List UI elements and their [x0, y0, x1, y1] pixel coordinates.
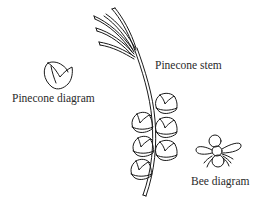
- pinecone-scales: [131, 93, 177, 179]
- scale-icon: [156, 117, 178, 137]
- scale-icon: [133, 136, 154, 156]
- scale-icon: [156, 140, 178, 160]
- pinecone-stem-label: Pinecone stem: [155, 60, 222, 72]
- pinecone-stem-icon: [94, 8, 156, 196]
- bee-diagram-icon: [196, 135, 241, 167]
- pinecone-diagram-label: Pinecone diagram: [12, 93, 95, 105]
- bee-diagram-label: Bee diagram: [191, 176, 249, 188]
- diagram-canvas: Pinecone stem Pinecone diagram Bee diagr…: [0, 0, 267, 209]
- pinecone-diagram-icon: [44, 62, 72, 89]
- scale-icon: [156, 93, 178, 113]
- scale-icon: [132, 112, 153, 132]
